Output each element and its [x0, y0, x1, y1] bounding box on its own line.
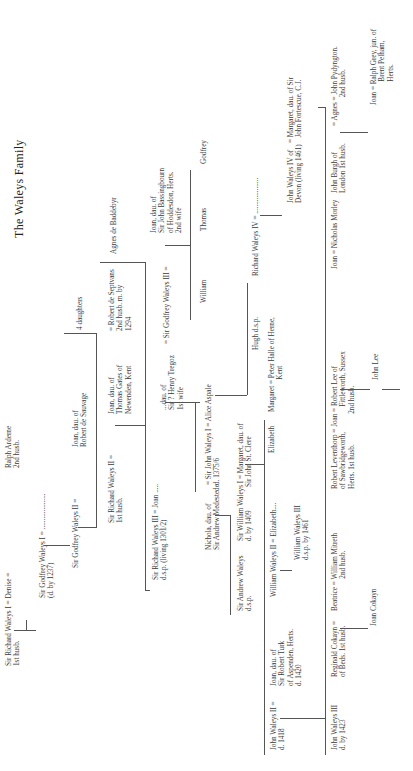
- connector: [280, 570, 292, 571]
- connector: [115, 425, 145, 426]
- person-william-waleys-iii: William Waleys III d.s.p. by 1461: [294, 505, 311, 560]
- person-margaret-fortescue: = Margaret, dau. of Sir John Fortescue, …: [287, 77, 304, 143]
- connector: [280, 718, 325, 719]
- person-joan-grey: Joan = Ralph Grey, jun. of Brent Pelham,…: [370, 29, 395, 105]
- connector: [215, 515, 230, 516]
- person-godfrey: Godfrey: [200, 140, 208, 164]
- connector: [145, 262, 146, 590]
- person-ralph-arderne: Ralph Arderne 2nd husb.: [5, 426, 22, 468]
- person-beatrice: Beatrice = William Mitreth 2nd husb.: [331, 533, 348, 611]
- person-sir-richard-waleys-i: Sir Richard Waleys I = Denise = 1st husb…: [5, 573, 22, 666]
- connector: [165, 245, 190, 246]
- person-sir-richard-waleys-ii: Sir Richard Waleys II = 1st husb.: [108, 455, 125, 523]
- person-agnes-pydyngton: = Agnes = John Pydyngton. 2nd husb.: [331, 46, 348, 126]
- person-sir-richard-waleys-iii: Sir Richard Waleys III = Joan ..... d.s.…: [152, 484, 169, 580]
- person-sir-william-waleys-i: Sir William Waleys I = Margaret, dau. of…: [237, 423, 254, 541]
- person-joan-cokayn: Joan Cokayn: [370, 589, 378, 626]
- connector: [215, 395, 247, 396]
- person-joan-sauvage: Joan, dau. of Robert de Sauvage: [72, 393, 89, 447]
- connector: [325, 107, 326, 282]
- connector: [190, 170, 191, 320]
- person-john-waleys-ii: John Waleys II = d. 1418: [270, 701, 287, 750]
- person-william: William: [200, 280, 208, 303]
- person-sir-godfrey-waleys-iii: = Sir Godfrey Waleys III =: [163, 267, 171, 344]
- chart-title: The Waleys Family: [12, 139, 26, 238]
- person-joan-gates: Joan, dau. of Thomas Gates of Newenden, …: [108, 365, 133, 414]
- person-elizabeth: Elizabeth: [268, 426, 276, 453]
- person-john-waleys-iv: John Waleys IV of Devon (living 1461): [287, 144, 304, 203]
- connector: [64, 333, 96, 334]
- connector: [260, 215, 282, 216]
- connector: [264, 420, 265, 755]
- person-john-lee: John Lee: [372, 354, 380, 380]
- person-sir-andrew-waleys: Sir Andrew Waleys d.s.p.: [237, 555, 254, 611]
- person-robert-de-septvans: = Robert de Septvans 2nd husb. m. by 129…: [108, 269, 133, 331]
- connector: [44, 545, 70, 546]
- connector: [325, 280, 326, 755]
- person-robert-leventhorp: Robert Leventhorp = Joan = Robert Lee of…: [331, 351, 356, 489]
- person-margaret: Margaret = Peter Halle of Herne, Kent: [268, 317, 285, 412]
- person-john-waleys-iii: John Waleys III d. by 1423: [331, 705, 348, 750]
- person-agnes-de-baddebyr: Agnes de Baddebyr: [110, 197, 118, 254]
- connector: [100, 262, 145, 263]
- connector: [247, 283, 248, 395]
- connector: [382, 389, 400, 390]
- person-reginald-cokayn: Reginald Cokayn = of Beds. 1st husb.: [331, 621, 348, 677]
- person-joan-turk: Joan, dau. of Sir Robert Turk of Aspende…: [270, 629, 304, 686]
- person-richard-waleys-iv: Richard Waleys IV = ....................: [252, 178, 260, 276]
- connector: [340, 132, 368, 133]
- person-four-daughters: 4 daughters: [76, 297, 84, 330]
- person-sir-john-waleys-i: = Sir John Waleys I = Alice Aspale d. 13…: [205, 384, 222, 485]
- connector: [245, 464, 265, 465]
- person-joan-morley: Joan = Nicholas Morley: [331, 200, 339, 269]
- person-john-burgh: John Burgh of London 1st husb.: [331, 143, 348, 193]
- person-nichola-medestede: Nichola, dau. of Sir Andrew Medestede: [205, 484, 222, 550]
- connector: [195, 402, 196, 492]
- person-william-waleys-ii: William Waleys II = Elizabeth....: [270, 503, 278, 597]
- person-hugh: Hugh d.s.p.: [252, 317, 260, 350]
- connector: [145, 590, 150, 591]
- person-thomas: Thomas: [200, 208, 208, 231]
- connector: [96, 333, 97, 528]
- connector: [26, 620, 27, 630]
- connector: [78, 527, 96, 528]
- connector: [340, 628, 368, 629]
- connector: [14, 630, 36, 631]
- person-joan-bassingbourn: Joan, dau. of Sir John Bassingbourn of H…: [150, 168, 184, 233]
- connector: [340, 389, 370, 390]
- connector: [230, 515, 231, 615]
- person-sir-godfrey-waleys-ii: Sir Godfrey Waleys II =: [72, 499, 80, 568]
